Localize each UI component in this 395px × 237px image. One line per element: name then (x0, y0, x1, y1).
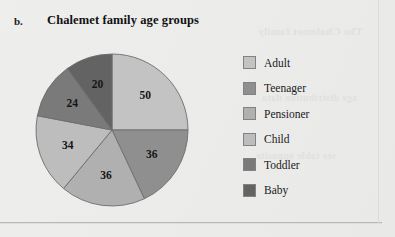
legend-item[interactable]: Teenager (243, 76, 373, 102)
vertical-divider (378, 0, 379, 223)
legend-color-swatch (243, 184, 256, 197)
legend-item-label: Teenager (264, 82, 306, 94)
legend-item[interactable]: Pensioner (243, 101, 373, 127)
pie-slice-value-label: 34 (62, 139, 74, 151)
legend-item[interactable]: Toddler (243, 152, 373, 178)
legend-item[interactable]: Adult (243, 50, 373, 76)
legend-item-label: Child (264, 133, 290, 145)
pie-slice-value-label: 20 (92, 78, 104, 90)
pie-slice-value-label: 36 (146, 148, 158, 160)
legend-item[interactable]: Child (243, 127, 373, 153)
figure-panel: The Chalemet family age distribution dat… (0, 0, 395, 237)
legend-color-swatch (243, 56, 256, 69)
legend-item-label: Pensioner (264, 108, 309, 120)
legend-color-swatch (243, 158, 256, 171)
chart-title: Chalemet family age groups (47, 13, 199, 28)
pie-slice-value-label: 24 (66, 97, 78, 109)
legend-color-swatch (243, 133, 256, 146)
legend-color-swatch (243, 107, 256, 120)
legend-item-label: Baby (264, 184, 288, 196)
legend-item-label: Toddler (264, 159, 300, 171)
pie-chart-svg: 503636342420 (34, 52, 190, 208)
legend-item-label: Adult (264, 57, 290, 69)
chart-legend: AdultTeenagerPensionerChildToddlerBaby (243, 50, 373, 203)
legend-color-swatch (243, 82, 256, 95)
figure-item-label: b. (14, 15, 23, 27)
pie-slice-value-label: 50 (140, 89, 152, 101)
bleedthrough-text-line1: The Chalemet family (258, 25, 363, 37)
horizontal-divider-shadow (0, 223, 382, 224)
pie-chart: 503636342420 (34, 52, 190, 208)
pie-slice-group (36, 54, 188, 206)
legend-item[interactable]: Baby (243, 178, 373, 204)
pie-slice-value-label: 36 (100, 169, 112, 181)
